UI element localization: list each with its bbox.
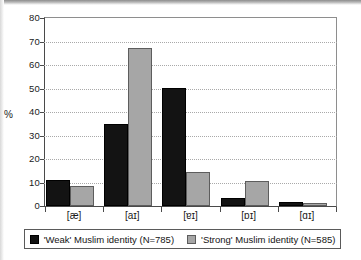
bar-strong-identity [70,186,94,206]
bar-weak-identity [104,124,128,206]
x-axis-category-label: [ɑɪ] [278,210,336,222]
y-axis-tick-label: 30 [18,131,40,141]
x-axis-tick-labels: [æ][aɪ][ɐɪ][ɒɪ][ɑɪ] [44,206,337,224]
legend-entry: 'Weak' Muslim identity (N=785) [30,234,174,245]
legend-swatch-black-icon [30,235,39,244]
bar-strong-identity [245,181,269,206]
legend-label: 'Strong' Muslim identity (N=585) [201,234,335,245]
bar-weak-identity [46,180,70,206]
y-axis-tick-label: 0 [18,201,40,211]
legend-label: 'Weak' Muslim identity (N=785) [44,234,174,245]
bar-weak-identity [221,198,245,206]
x-axis-category-label: [aɪ] [103,210,161,222]
x-axis-category-label: [æ] [45,210,103,222]
chart-legend: 'Weak' Muslim identity (N=785)'Strong' M… [24,229,341,249]
bar-group [220,18,278,206]
bar-group [45,18,103,206]
y-axis-title: % [4,110,13,120]
x-axis-category-label: [ɐɪ] [161,210,219,222]
bar-group [278,18,336,206]
legend-swatch-gray-icon [187,235,196,244]
plot-area [44,17,337,207]
y-axis-tick-label: 20 [18,154,40,164]
bar-group [103,18,161,206]
y-axis-tick-label: 80 [18,13,40,23]
y-axis-tick-label: 60 [18,60,40,70]
bar-strong-identity [128,48,152,206]
bar-weak-identity [162,88,186,206]
bar-strong-identity [186,172,210,206]
y-axis-tick-label: 50 [18,84,40,94]
legend-entry: 'Strong' Muslim identity (N=585) [187,234,335,245]
y-axis-tick-labels: 01020304050607080 [14,17,40,207]
bar-chart-figure: % 01020304050607080 [æ][aɪ][ɐɪ][ɒɪ][ɑɪ] … [0,0,361,260]
y-axis-tick-label: 70 [18,37,40,47]
bar-group [161,18,219,206]
x-axis-category-label: [ɒɪ] [220,210,278,222]
y-axis-tick-label: 10 [18,178,40,188]
y-axis-tick-label: 40 [18,107,40,117]
bars-layer [45,18,336,206]
